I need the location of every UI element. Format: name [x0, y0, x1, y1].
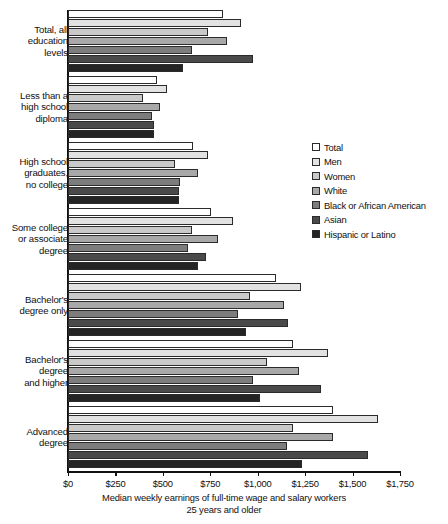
bar-row: [68, 10, 400, 18]
bar: [68, 178, 180, 186]
bar-row: [68, 328, 400, 336]
bar-row: [68, 46, 400, 54]
bar-row: [68, 358, 400, 366]
earnings-by-education-bar-chart: $0$250$500$750$1,000$1,250$1,500$1,750 T…: [0, 0, 448, 524]
y-axis-category-label-line: graduates,: [0, 167, 68, 179]
bar: [68, 262, 198, 270]
bar-row: [68, 406, 400, 414]
bar: [68, 451, 368, 459]
bar: [68, 28, 208, 36]
y-axis-category-label: Advanceddegree: [0, 426, 68, 449]
x-axis-title: Median weekly earnings of full-time wage…: [0, 492, 448, 517]
bar: [68, 64, 183, 72]
x-axis-title-line-2: 25 years and older: [0, 504, 448, 516]
bar-row: [68, 64, 400, 72]
x-axis-tick: [115, 471, 116, 476]
bar-row: [68, 142, 400, 150]
y-axis-category-label-line: High school: [0, 156, 68, 168]
y-axis-category-label: Total, alleducationlevels: [0, 24, 68, 59]
bar: [68, 376, 253, 384]
bar: [68, 292, 250, 300]
bar-row: [68, 121, 400, 129]
bar-row: [68, 151, 400, 159]
bar: [68, 103, 160, 111]
y-axis-category-label-line: Bachelor's: [0, 354, 68, 366]
bar-row: [68, 319, 400, 327]
bar: [68, 319, 288, 327]
x-axis-tick: [353, 471, 354, 476]
bar: [68, 76, 157, 84]
y-axis-category-label-line: Less than a: [0, 90, 68, 102]
x-axis-tick: [163, 471, 164, 476]
bar: [68, 442, 287, 450]
bar-row: [68, 253, 400, 261]
bar: [68, 274, 276, 282]
bar-row: [68, 187, 400, 195]
bar: [68, 55, 253, 63]
bar-row: [68, 367, 400, 375]
bar: [68, 235, 218, 243]
bar-row: [68, 178, 400, 186]
y-axis-category-label-line: Bachelor's: [0, 294, 68, 306]
bar: [68, 283, 301, 291]
bar-row: [68, 235, 400, 243]
bar-row: [68, 310, 400, 318]
bar-row: [68, 274, 400, 282]
bar: [68, 358, 267, 366]
x-axis-tick-label: $0: [63, 478, 73, 489]
y-axis-category-label-line: education: [0, 35, 68, 47]
bar-row: [68, 385, 400, 393]
x-axis-tick-label: $1,000: [244, 478, 271, 489]
bar: [68, 121, 154, 129]
y-axis-category-label-line: Some college: [0, 222, 68, 234]
y-axis-category-label-line: diploma: [0, 113, 68, 125]
bar-row: [68, 442, 400, 450]
x-axis-tick: [210, 471, 211, 476]
y-axis-category-label: Less than ahigh schooldiploma: [0, 90, 68, 125]
bar-row: [68, 28, 400, 36]
bar: [68, 196, 179, 204]
bar-row: [68, 76, 400, 84]
bar-row: [68, 376, 400, 384]
bar-row: [68, 262, 400, 270]
bar: [68, 424, 293, 432]
bar-row: [68, 460, 400, 468]
bar: [68, 340, 293, 348]
bar-row: [68, 283, 400, 291]
y-axis-category-label: Some collegeor associatedegree: [0, 222, 68, 257]
bar: [68, 328, 246, 336]
bar: [68, 244, 188, 252]
bar-row: [68, 130, 400, 138]
x-axis-tick-label: $1,500: [339, 478, 366, 489]
bar: [68, 208, 211, 216]
bar: [68, 37, 227, 45]
y-axis-category-label-line: Total, all: [0, 24, 68, 36]
y-axis-category-label-line: Advanced: [0, 426, 68, 438]
bar: [68, 253, 206, 261]
x-axis-line: [67, 471, 401, 473]
bar-row: [68, 415, 400, 423]
bar: [68, 130, 154, 138]
bar-row: [68, 433, 400, 441]
bar-row: [68, 103, 400, 111]
x-axis-tick: [305, 471, 306, 476]
bar: [68, 226, 192, 234]
y-axis-category-label-line: and higher: [0, 377, 68, 389]
y-axis-category-label-line: or associate: [0, 233, 68, 245]
bar: [68, 160, 175, 168]
bar: [68, 415, 378, 423]
x-axis-title-line-1: Median weekly earnings of full-time wage…: [0, 492, 448, 504]
bar: [68, 142, 193, 150]
bar: [68, 349, 328, 357]
bar: [68, 433, 333, 441]
y-axis-category-label: Bachelor'sdegreeand higher: [0, 354, 68, 389]
bar: [68, 46, 192, 54]
bar-row: [68, 19, 400, 27]
y-axis-category-label: Bachelor'sdegree only: [0, 294, 68, 317]
y-axis-category-label-line: degree only: [0, 305, 68, 317]
bar: [68, 151, 208, 159]
bar-row: [68, 301, 400, 309]
y-axis-category-label-line: degree: [0, 245, 68, 257]
x-axis-tick: [258, 471, 259, 476]
bar-row: [68, 292, 400, 300]
